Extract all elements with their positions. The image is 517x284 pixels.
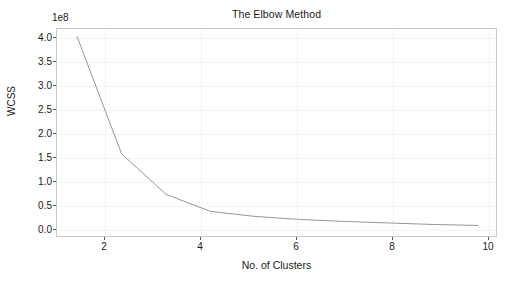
- series-wcss: [57, 29, 497, 237]
- x-tick-mark: [104, 237, 105, 240]
- x-tick-mark: [296, 237, 297, 240]
- y-tick-mark: [53, 157, 56, 158]
- y-tick-mark: [53, 181, 56, 182]
- x-tick-label: 10: [473, 241, 503, 252]
- y-axis-title: WCSS: [6, 86, 17, 116]
- y-tick-mark: [53, 61, 56, 62]
- y-tick-label: 0.0: [24, 225, 52, 235]
- y-tick-label: 4.0: [24, 33, 52, 43]
- y-tick-label: 1.0: [24, 177, 52, 187]
- y-tick-label: 3.5: [24, 57, 52, 67]
- x-tick-mark: [488, 237, 489, 240]
- y-axis-ticks: 4.0 3.5 3.0 2.5 2.0 1.5 1.0 0.5 0.0: [20, 0, 52, 284]
- y-tick-label: 1.5: [24, 153, 52, 163]
- x-tick-label: 8: [377, 241, 407, 252]
- y-tick-label: 3.0: [24, 81, 52, 91]
- y-tick-mark: [53, 85, 56, 86]
- x-tick-mark: [200, 237, 201, 240]
- x-tick-mark: [392, 237, 393, 240]
- y-tick-label: 0.5: [24, 201, 52, 211]
- x-tick-label: 4: [185, 241, 215, 252]
- chart-figure: The Elbow Method 1e8 WCSS 4.0 3.5 3.0 2.…: [0, 0, 517, 284]
- y-tick-mark: [53, 133, 56, 134]
- y-tick-mark: [53, 109, 56, 110]
- y-tick-label: 2.0: [24, 129, 52, 139]
- x-tick-label: 2: [89, 241, 119, 252]
- y-tick-mark: [53, 37, 56, 38]
- y-tick-mark: [53, 205, 56, 206]
- y-tick-label: 2.5: [24, 105, 52, 115]
- plot-area: [56, 28, 497, 237]
- chart-title: The Elbow Method: [56, 8, 497, 20]
- y-axis-offset-label: 1e8: [52, 12, 69, 23]
- x-axis-title: No. of Clusters: [56, 259, 497, 271]
- y-tick-mark: [53, 229, 56, 230]
- x-tick-label: 6: [281, 241, 311, 252]
